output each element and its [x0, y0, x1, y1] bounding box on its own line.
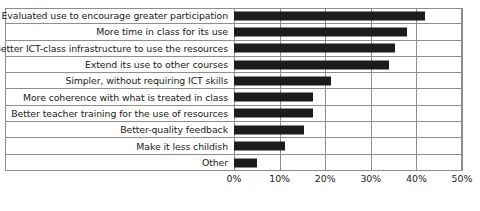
- bar-track: [234, 138, 462, 153]
- bar-category-label: Extend its use to other courses: [5, 57, 234, 72]
- bar-category-label: Evaluated use to encourage greater parti…: [5, 8, 234, 23]
- bar-track: [234, 89, 462, 104]
- bar-track: [234, 41, 462, 56]
- bar-row: More coherence with what is treated in c…: [5, 89, 462, 105]
- bar-category-label: Better-quality feedback: [5, 122, 234, 137]
- bar-track: [234, 122, 462, 137]
- bar-row: Better ICT-class infrastructure to use t…: [5, 41, 462, 57]
- bar: [234, 11, 425, 20]
- bar-track: [234, 73, 462, 88]
- bar: [234, 60, 389, 69]
- bar: [234, 93, 313, 102]
- bar-row: Evaluated use to encourage greater parti…: [5, 8, 462, 24]
- bar: [234, 44, 395, 53]
- bar-category-label: Better teacher training for the use of r…: [5, 106, 234, 121]
- bar: [234, 109, 313, 118]
- bar-track: [234, 57, 462, 72]
- bar-chart: Evaluated use to encourage greater parti…: [0, 0, 480, 211]
- bar-row: Extend its use to other courses: [5, 57, 462, 73]
- bar-track: [234, 8, 462, 23]
- bar-category-label: More time in class for its use: [5, 24, 234, 39]
- bar-row: More time in class for its use: [5, 24, 462, 40]
- bar-category-label: Other: [5, 155, 234, 171]
- x-tick-label: 0%: [227, 173, 242, 184]
- x-tick-label: 30%: [360, 173, 381, 184]
- bar-row: Better teacher training for the use of r…: [5, 106, 462, 122]
- bar: [234, 142, 285, 151]
- bar-row: Better-quality feedback: [5, 122, 462, 138]
- bar: [234, 158, 257, 167]
- bar-row: Other: [5, 155, 462, 171]
- gridline-50: [462, 8, 463, 171]
- x-axis-tick-labels: 0%10%20%30%40%50%: [0, 173, 480, 189]
- bar: [234, 125, 304, 134]
- x-tick-label: 50%: [452, 173, 473, 184]
- bar-category-label: More coherence with what is treated in c…: [5, 89, 234, 104]
- bar-rows: Evaluated use to encourage greater parti…: [5, 8, 462, 171]
- bar-track: [234, 24, 462, 39]
- bar-category-label: Make it less childish: [5, 138, 234, 153]
- bar-row: Make it less childish: [5, 138, 462, 154]
- bar-track: [234, 155, 462, 171]
- x-tick-label: 40%: [406, 173, 427, 184]
- bar: [234, 76, 331, 85]
- bar: [234, 27, 407, 36]
- bar-row: Simpler, without requiring ICT skills: [5, 73, 462, 89]
- x-tick-label: 10%: [269, 173, 290, 184]
- bar-category-label: Better ICT-class infrastructure to use t…: [5, 41, 234, 56]
- bar-category-label: Simpler, without requiring ICT skills: [5, 73, 234, 88]
- bar-track: [234, 106, 462, 121]
- x-tick-label: 20%: [315, 173, 336, 184]
